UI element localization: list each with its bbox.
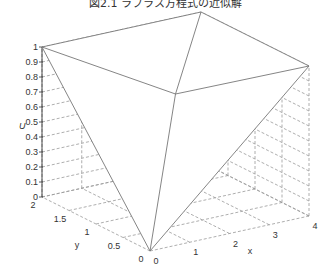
x-tick-label: 2 xyxy=(233,239,238,249)
z-tick-label: 0.5 xyxy=(25,117,38,127)
x-tick-label: 4 xyxy=(312,221,317,231)
x-tick-label: 1 xyxy=(193,247,198,257)
z-tick-label: 0.8 xyxy=(25,72,38,82)
z-tick-label: 0.6 xyxy=(25,102,38,112)
x-tick-label: 3 xyxy=(273,230,278,240)
y-axis-label: y xyxy=(75,240,80,250)
z-tick-label: 0.1 xyxy=(25,177,38,187)
y-tick-label: 1.5 xyxy=(54,214,67,224)
z-tick-label: 1 xyxy=(33,42,38,52)
y-tick-label: 0.5 xyxy=(108,241,121,251)
y-tick-label: 2 xyxy=(30,200,35,210)
x-axis-label: x xyxy=(248,246,253,256)
y-tick-label: 0 xyxy=(138,254,143,264)
z-axis-label: U xyxy=(19,121,26,131)
z-tick-label: 0.9 xyxy=(25,57,38,67)
surface-plot: 00.10.20.30.40.50.60.70.80.910123400.511… xyxy=(0,0,331,276)
z-tick-label: 0.2 xyxy=(25,162,38,172)
x-tick-label: 0 xyxy=(153,256,158,266)
axes xyxy=(39,47,43,197)
y-tick-label: 1 xyxy=(84,227,89,237)
z-tick-label: 0.3 xyxy=(25,147,38,157)
z-tick-label: 0.7 xyxy=(25,87,38,97)
z-tick-label: 0.4 xyxy=(25,132,38,142)
